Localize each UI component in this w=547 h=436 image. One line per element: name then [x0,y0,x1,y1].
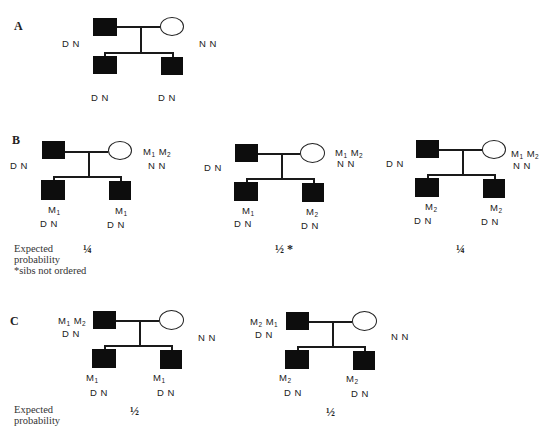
affected-son-square [483,179,505,198]
marker-m1: M1 [335,147,348,158]
genotype-label: N N [198,332,216,343]
genotype-label: D N [481,216,499,227]
mating-line [309,321,352,323]
genotype-label: N N [148,160,166,171]
affected-son-square [41,180,65,200]
marker-label: M1 [153,372,166,384]
sibship-line [427,174,495,176]
marker-label: M1 [86,372,99,384]
genotype-label: D N [386,158,404,169]
genotype-label: D N [255,329,273,340]
marker-label: M2 [490,202,503,214]
mating-line [116,320,159,322]
unaffected-mother-circle [352,311,377,331]
marker-m2: M2 [250,316,263,327]
panel-label-b: B [12,133,20,148]
genotype-label: D N [62,38,80,49]
marker-label: M2 [346,373,359,385]
affected-father-square [93,311,116,329]
affected-son-square [353,351,375,370]
mating-line [65,151,108,153]
panel-label-c: C [10,314,19,329]
footnote: *sibs not ordered [14,265,86,276]
marker-label: M2 [425,201,438,213]
affected-son-square [109,181,131,200]
panel-label-a: A [14,19,23,34]
genotype-label: D N [414,215,432,226]
genotype-label: D N [91,92,109,103]
genotype-label: D N [40,218,58,229]
affected-son-square [160,350,182,369]
mating-line [117,26,160,28]
genotype-label: D N [157,387,175,398]
marker-label: M1 [48,204,61,216]
affected-father-square [416,140,439,158]
unaffected-mother-circle [482,140,506,159]
probability-value: ¼ [456,242,465,257]
affected-son-square [285,350,309,369]
probability-label: probability [14,254,60,265]
marker-m1: M1 [511,148,524,159]
probability-value: ½ [130,404,139,419]
genotype-label: D N [234,218,252,229]
affected-son-square [234,182,258,201]
unaffected-mother-circle [159,310,184,330]
descent-line [139,320,141,346]
sibship-line [246,178,314,180]
affected-son-square [92,349,116,368]
marker-label: M1 [115,205,128,217]
marker-label: M2 [306,206,319,218]
marker-label: M2 M1 [250,316,278,328]
affected-father-square [93,18,117,36]
marker-label: M1 M2 [143,146,171,158]
genotype-label: D N [107,219,125,230]
genotype-label: D N [301,220,319,231]
descent-line [140,27,142,53]
marker-label: M2 [279,372,292,384]
genotype-label: N N [513,160,531,171]
genotype-label: D N [10,160,28,171]
marker-label: M1 M2 [58,315,86,327]
mating-line [258,153,300,155]
affected-father-square [235,144,258,162]
marker-label: M1 [242,205,255,217]
genotype-label: D N [351,388,369,399]
affected-father-square [42,141,65,159]
sibship-line [104,52,173,54]
genotype-label: N N [337,158,355,169]
mating-line [439,149,482,151]
descent-line [332,321,334,347]
affected-son-square [415,178,439,197]
marker-m2: M2 [74,315,87,326]
probability-value: ½ [326,405,335,420]
descent-line [281,153,283,179]
sibship-line [53,176,121,178]
genotype-label: D N [284,387,302,398]
probability-label: probability [14,415,60,426]
affected-son-square [93,56,117,74]
marker-m2: M2 [527,148,540,159]
sibship-line [297,346,365,348]
affected-son-square [302,183,324,202]
affected-father-square [286,312,309,330]
genotype-label: N N [199,38,217,49]
sibship-line [104,345,172,347]
probability-value: ½ * [275,242,293,257]
marker-label: M1 M2 [511,148,539,160]
probability-value: ¼ [83,242,92,257]
marker-m1: M1 [143,146,156,157]
marker-m2: M2 [159,146,172,157]
unaffected-mother-circle [160,17,184,36]
affected-son-square [161,57,183,75]
unaffected-mother-circle [108,141,132,160]
genotype-label: D N [62,328,80,339]
unaffected-mother-circle [300,143,325,163]
genotype-label: D N [90,387,108,398]
expected-label: Expected [14,404,53,415]
expected-label: Expected [14,243,53,254]
marker-m1: M1 [58,315,71,326]
marker-m1: M1 [266,316,279,327]
descent-line [462,149,464,175]
descent-line [88,151,90,177]
genotype-label: D N [158,92,176,103]
